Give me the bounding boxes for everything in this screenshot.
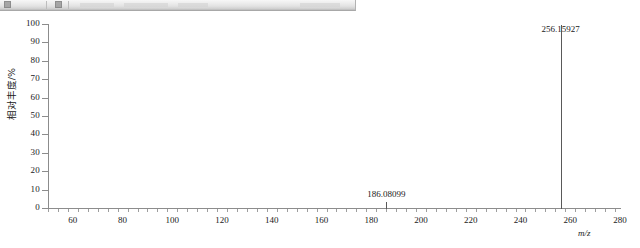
x-axis-tick-label: 100 bbox=[152, 215, 192, 225]
y-axis-tick-label: 10 bbox=[0, 185, 40, 194]
x-axis-minor-tick bbox=[366, 209, 367, 212]
x-axis-minor-tick bbox=[297, 209, 298, 212]
y-axis-tick-labels: 0102030405060708090100 bbox=[0, 11, 40, 248]
x-axis-minor-tick bbox=[346, 209, 347, 212]
x-axis-minor-tick bbox=[267, 209, 268, 212]
x-axis-minor-tick bbox=[98, 209, 99, 212]
x-axis-minor-tick bbox=[217, 209, 218, 212]
y-axis-tick-label: 100 bbox=[0, 19, 40, 28]
x-axis-minor-tick bbox=[287, 209, 288, 212]
x-axis-tick-label: 220 bbox=[451, 215, 491, 225]
application-toolbar[interactable] bbox=[0, 0, 356, 11]
x-axis-tick-label: 140 bbox=[252, 215, 292, 225]
x-axis-minor-tick bbox=[356, 209, 357, 212]
x-axis-minor-tick bbox=[68, 209, 69, 212]
y-axis-title: 相对丰度/% bbox=[7, 46, 17, 142]
x-axis-minor-tick bbox=[545, 209, 546, 212]
x-axis-minor-tick bbox=[197, 209, 198, 212]
x-axis-minor-tick bbox=[138, 209, 139, 212]
x-axis-minor-tick bbox=[237, 209, 238, 212]
y-axis-tick-label: 40 bbox=[0, 129, 40, 138]
y-axis-tick-label: 80 bbox=[0, 56, 40, 65]
spectrum-peak bbox=[561, 25, 562, 209]
x-axis-minor-tick bbox=[506, 209, 507, 212]
x-axis-tick-label: 240 bbox=[501, 215, 541, 225]
y-axis-tick-label: 0 bbox=[0, 203, 40, 212]
x-axis-tick-label: 200 bbox=[401, 215, 441, 225]
x-axis-title: m/z bbox=[578, 228, 591, 238]
x-axis-minor-tick bbox=[466, 209, 467, 212]
x-axis-minor-tick bbox=[446, 209, 447, 212]
x-axis-minor-tick bbox=[277, 209, 278, 212]
toolbar-control[interactable] bbox=[80, 3, 114, 7]
x-axis-minor-tick bbox=[416, 209, 417, 212]
x-axis-tick-label: 260 bbox=[550, 215, 590, 225]
x-axis-minor-tick bbox=[376, 209, 377, 212]
x-axis-minor-tick bbox=[128, 209, 129, 212]
x-axis-tick-label: 180 bbox=[351, 215, 391, 225]
x-axis-minor-tick bbox=[257, 209, 258, 212]
x-axis-tick-label: 80 bbox=[103, 215, 143, 225]
toolbar-separator bbox=[68, 1, 69, 9]
x-axis-tick-label: 160 bbox=[302, 215, 342, 225]
x-axis-minor-tick bbox=[336, 209, 337, 212]
x-axis-minor-tick bbox=[108, 209, 109, 212]
x-axis-minor-tick bbox=[317, 209, 318, 212]
y-axis-tick-label: 90 bbox=[0, 37, 40, 46]
y-axis-tick-label: 20 bbox=[0, 166, 40, 175]
x-axis-minor-tick bbox=[118, 209, 119, 212]
x-axis-minor-tick bbox=[525, 209, 526, 212]
x-axis-minor-tick bbox=[436, 209, 437, 212]
x-axis-minor-tick bbox=[396, 209, 397, 212]
x-axis-minor-tick bbox=[247, 209, 248, 212]
x-axis-tick-label: 280 bbox=[600, 215, 640, 225]
x-axis-minor-tick bbox=[327, 209, 328, 212]
toolbar-button-icon[interactable] bbox=[4, 1, 11, 8]
x-axis-minor-tick bbox=[147, 209, 148, 212]
x-axis-minor-tick bbox=[307, 209, 308, 212]
x-axis-minor-tick bbox=[167, 209, 168, 212]
x-axis-minor-tick bbox=[585, 209, 586, 212]
spectrum-peak bbox=[386, 202, 387, 209]
toolbar-separator bbox=[46, 1, 47, 9]
toolbar-control[interactable] bbox=[124, 3, 168, 7]
x-axis-minor-tick bbox=[615, 209, 616, 212]
x-axis-minor-tick bbox=[575, 209, 576, 212]
x-axis-minor-tick bbox=[386, 209, 387, 212]
x-axis-minor-tick bbox=[177, 209, 178, 212]
x-axis-minor-tick bbox=[496, 209, 497, 212]
x-axis-minor-tick bbox=[516, 209, 517, 212]
x-axis-minor-tick bbox=[456, 209, 457, 212]
x-axis-minor-tick bbox=[207, 209, 208, 212]
spectrum-peaks bbox=[48, 24, 621, 209]
x-axis-minor-tick bbox=[595, 209, 596, 212]
x-axis-minor-tick bbox=[187, 209, 188, 212]
y-axis-tick-label: 30 bbox=[0, 148, 40, 157]
x-axis-tick-label: 120 bbox=[202, 215, 242, 225]
x-axis-minor-tick bbox=[605, 209, 606, 212]
x-axis-minor-tick bbox=[406, 209, 407, 212]
x-axis-minor-tick bbox=[227, 209, 228, 212]
x-axis-minor-tick bbox=[426, 209, 427, 212]
x-axis-minor-tick bbox=[535, 209, 536, 212]
toolbar-control[interactable] bbox=[300, 3, 340, 7]
mass-spectrum-chart: 0102030405060708090100 相对丰度/% 6080100120… bbox=[0, 11, 640, 248]
toolbar-button-icon[interactable] bbox=[55, 1, 62, 8]
toolbar-control[interactable] bbox=[178, 3, 208, 7]
x-axis-minor-tick bbox=[565, 209, 566, 212]
x-axis-minor-tick bbox=[555, 209, 556, 212]
x-axis-minor-tick bbox=[476, 209, 477, 212]
x-axis-minor-tick bbox=[157, 209, 158, 212]
x-axis-tick-label: 60 bbox=[53, 215, 93, 225]
x-axis-minor-tick bbox=[88, 209, 89, 212]
x-axis-minor-tick bbox=[486, 209, 487, 212]
x-axis-minor-tick bbox=[48, 209, 49, 212]
x-axis-minor-tick bbox=[78, 209, 79, 212]
x-axis-minor-tick bbox=[58, 209, 59, 212]
